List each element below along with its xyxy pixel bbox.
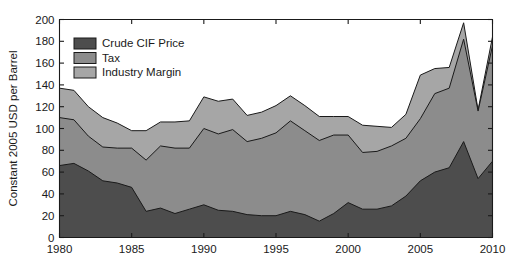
x-tick-label: 2005 bbox=[408, 243, 434, 255]
legend-swatch-0 bbox=[74, 38, 96, 49]
y-tick-label: 80 bbox=[42, 144, 55, 156]
x-tick-label: 1980 bbox=[47, 243, 73, 255]
y-tick-label: 100 bbox=[35, 123, 54, 135]
legend-swatch-1 bbox=[74, 53, 96, 64]
chart-figure: 0204060801001201401601802001980198519901… bbox=[0, 0, 523, 267]
legend-label-2: Industry Margin bbox=[102, 66, 181, 78]
y-tick-label: 120 bbox=[35, 101, 54, 113]
y-tick-label: 160 bbox=[35, 57, 54, 69]
y-tick-label: 180 bbox=[35, 35, 54, 47]
y-tick-label: 200 bbox=[35, 14, 54, 26]
y-tick-label: 140 bbox=[35, 79, 54, 91]
x-tick-label: 1995 bbox=[263, 243, 289, 255]
legend-label-0: Crude CIF Price bbox=[102, 37, 184, 49]
y-tick-label: 40 bbox=[42, 188, 55, 200]
x-tick-label: 1985 bbox=[119, 243, 145, 255]
x-tick-label: 2010 bbox=[480, 243, 506, 255]
x-tick-label: 1990 bbox=[191, 243, 217, 255]
x-tick-label: 2000 bbox=[335, 243, 361, 255]
chart-legend: Crude CIF PriceTaxIndustry Margin bbox=[69, 33, 197, 87]
y-tick-label: 60 bbox=[42, 166, 55, 178]
stacked-area-chart: 0204060801001201401601802001980198519901… bbox=[0, 0, 523, 267]
y-tick-label: 20 bbox=[42, 210, 55, 222]
legend-label-1: Tax bbox=[102, 52, 120, 64]
y-axis-title: Constant 2005 USD per Barrel bbox=[7, 51, 19, 207]
legend-swatch-2 bbox=[74, 67, 96, 78]
